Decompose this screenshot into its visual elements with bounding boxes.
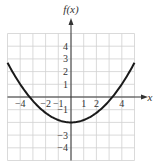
y-tick-label: 4 <box>63 41 68 52</box>
y-axis-arrow-icon <box>69 18 74 25</box>
axes <box>8 18 149 161</box>
x-tick-label: 4 <box>119 98 124 109</box>
y-tick-label: 3 <box>63 53 68 64</box>
x-tick-label: −2 <box>40 98 51 109</box>
y-tick-label: 1 <box>63 79 68 90</box>
y-axis-label: f(x) <box>63 3 79 16</box>
y-tick-label: −4 <box>57 142 68 153</box>
x-tick-label: −4 <box>15 98 26 109</box>
x-tick-label: 1 <box>81 98 86 109</box>
x-tick-label: 2 <box>94 98 99 109</box>
function-graph: −4−2−11244321−1−3−4 f(x) x <box>0 0 154 164</box>
y-tick-label: 2 <box>63 66 68 77</box>
y-tick-label: −1 <box>57 104 68 115</box>
x-axis-label: x <box>147 91 153 103</box>
y-tick-label: −3 <box>57 130 68 141</box>
